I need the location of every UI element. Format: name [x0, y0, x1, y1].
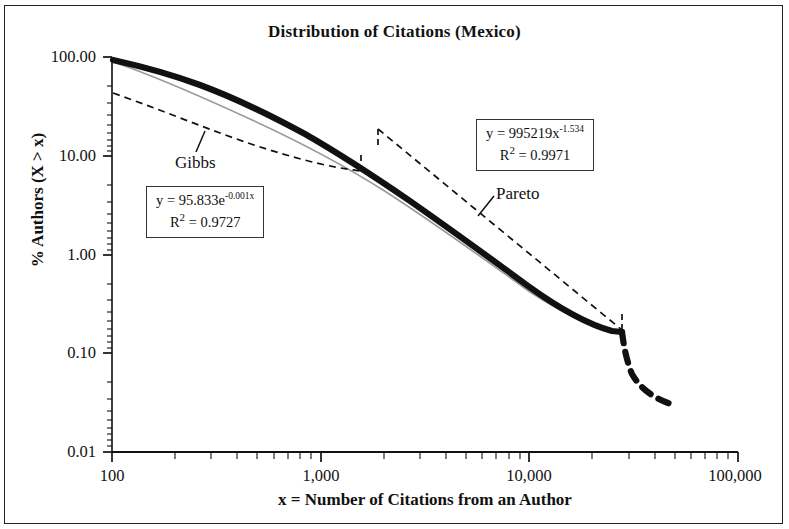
pareto-equation-exponent: -1.534 — [559, 124, 584, 134]
y-tick-label-0.01: 0.01 — [22, 442, 96, 462]
x-tick-label-100: 100 — [100, 466, 125, 486]
x-minor-ticks — [175, 452, 728, 459]
gibbs-fit-curve — [113, 93, 361, 171]
x-tick-label-10000: 10,000 — [506, 466, 551, 486]
plot-canvas — [0, 0, 789, 529]
y-tick-label-100: 100.00 — [22, 47, 96, 67]
x-tick-label-1000: 1,000 — [302, 466, 339, 486]
y-tick-label-0.10: 0.10 — [22, 343, 96, 363]
gibbs-equation-box: y = 95.833e-0.001x R2 = 0.9727 — [146, 186, 264, 238]
citation-distribution-figure: Distribution of Citations (Mexico) — [0, 0, 789, 529]
gibbs-r2-symbol: R — [170, 214, 180, 230]
x-major-ticks — [112, 452, 738, 462]
x-axis-title: x = Number of Citations from an Author — [112, 490, 738, 510]
pareto-equation-box: y = 995219x-1.534 R2 = 0.9971 — [476, 119, 594, 171]
pareto-r2-line: R2 = 0.9971 — [486, 143, 584, 165]
gibbs-r2-value: = 0.9727 — [185, 214, 240, 230]
gibbs-leader-line — [196, 131, 205, 152]
empirical-tail-dashed — [622, 332, 676, 406]
pareto-leader-line — [478, 196, 494, 216]
gibbs-equation-base: y = 95.833e — [156, 192, 225, 208]
y-axis-title: % Authors (X > x) — [28, 100, 48, 300]
y-major-ticks — [103, 57, 112, 452]
pareto-equation-line: y = 995219x-1.534 — [486, 123, 584, 143]
gibbs-r2-line: R2 = 0.9727 — [156, 210, 254, 232]
pareto-r2-value: = 0.9971 — [515, 147, 570, 163]
pareto-r2-symbol: R — [500, 147, 510, 163]
gibbs-series-label: Gibbs — [175, 153, 216, 173]
gibbs-equation-line: y = 95.833e-0.001x — [156, 190, 254, 210]
pareto-equation-base: y = 995219x — [486, 125, 559, 141]
gibbs-equation-exponent: -0.001x — [225, 191, 254, 201]
x-tick-label-100000: 100,000 — [708, 466, 762, 486]
pareto-series-label: Pareto — [496, 184, 539, 204]
